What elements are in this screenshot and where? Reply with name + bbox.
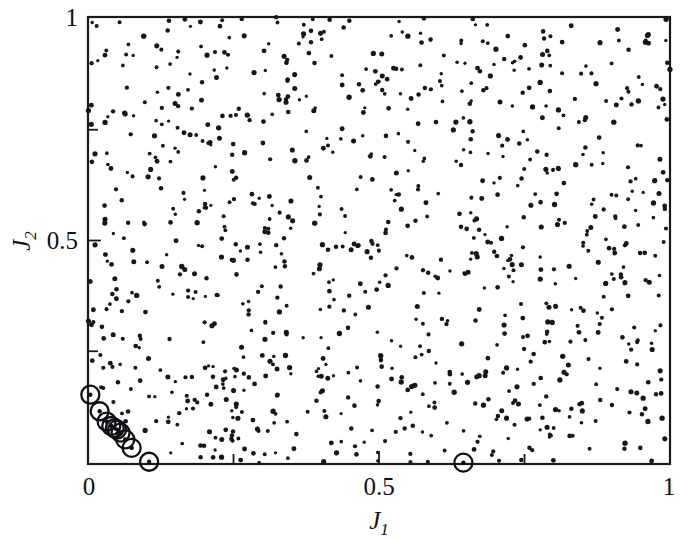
data-point <box>604 237 608 241</box>
data-point <box>627 410 631 414</box>
data-point <box>644 39 648 43</box>
data-point <box>468 137 473 142</box>
data-point <box>152 133 157 138</box>
data-point <box>205 122 210 127</box>
data-point <box>323 414 328 419</box>
data-point <box>278 284 282 288</box>
data-point <box>598 398 603 403</box>
data-point <box>510 254 514 258</box>
data-point <box>101 366 105 370</box>
data-point <box>393 199 397 203</box>
data-point <box>201 139 205 143</box>
data-point <box>232 197 236 201</box>
data-point <box>211 365 214 368</box>
data-point <box>205 53 210 58</box>
data-point <box>318 205 321 208</box>
data-point <box>495 418 499 422</box>
data-point <box>662 436 667 441</box>
data-point <box>332 374 335 377</box>
data-point <box>604 99 608 103</box>
data-point <box>131 259 136 264</box>
data-point <box>475 440 479 444</box>
data-point <box>470 251 474 255</box>
data-point <box>486 397 491 402</box>
data-point <box>520 91 524 95</box>
data-point <box>518 55 523 60</box>
data-point <box>99 385 103 389</box>
data-point <box>573 162 578 167</box>
svg-text:J2: J2 <box>8 231 40 251</box>
data-point <box>138 378 143 383</box>
data-point <box>320 242 325 247</box>
data-point <box>324 363 327 366</box>
data-point <box>334 450 339 455</box>
data-point <box>512 268 516 272</box>
data-point <box>321 459 326 464</box>
data-point <box>472 447 477 452</box>
data-point <box>612 247 616 251</box>
data-point <box>376 399 381 404</box>
data-point <box>390 367 393 370</box>
data-point <box>544 394 548 398</box>
data-point <box>507 389 511 393</box>
data-point <box>397 20 400 23</box>
data-point <box>250 192 255 197</box>
data-point <box>626 47 631 52</box>
data-point <box>511 280 514 283</box>
data-point <box>156 90 160 94</box>
data-point <box>577 330 582 335</box>
data-point <box>159 48 163 52</box>
data-point <box>182 130 187 135</box>
data-point <box>235 416 240 421</box>
y-tick-labels: 1 0.5 <box>47 4 78 254</box>
data-point <box>252 382 257 387</box>
data-point <box>614 193 618 197</box>
data-point <box>154 43 159 48</box>
data-point <box>659 377 663 381</box>
data-point <box>562 181 567 186</box>
data-point <box>334 244 339 249</box>
data-point <box>262 48 267 53</box>
data-point <box>384 134 389 139</box>
data-point <box>116 380 121 385</box>
data-point <box>312 61 317 66</box>
data-point <box>203 189 206 192</box>
data-point <box>491 449 495 453</box>
data-point <box>203 320 207 324</box>
data-point <box>219 455 224 460</box>
data-point <box>566 362 571 367</box>
data-point <box>516 368 519 371</box>
data-point <box>654 84 659 89</box>
data-point <box>347 18 352 23</box>
data-point <box>545 425 550 430</box>
data-point <box>416 187 420 191</box>
data-point <box>418 63 422 67</box>
data-point <box>405 34 410 39</box>
data-point <box>221 382 225 386</box>
data-point <box>378 353 383 358</box>
data-point <box>141 33 146 38</box>
data-point <box>126 221 130 225</box>
data-point <box>421 268 425 272</box>
data-point <box>318 212 322 216</box>
data-point <box>89 61 93 65</box>
data-point <box>498 176 502 180</box>
data-point <box>262 92 266 96</box>
data-point <box>545 333 548 336</box>
data-point <box>658 274 662 278</box>
data-point <box>285 77 290 82</box>
data-point <box>90 358 95 363</box>
data-point <box>325 376 330 381</box>
data-point <box>160 106 164 110</box>
data-point <box>155 159 160 164</box>
data-point <box>542 36 546 40</box>
data-point <box>198 455 203 460</box>
data-point <box>340 126 345 131</box>
data-point <box>611 119 616 124</box>
data-point <box>624 241 629 246</box>
data-point <box>363 441 366 444</box>
data-point <box>439 257 443 261</box>
data-point <box>540 115 545 120</box>
data-point <box>538 80 543 85</box>
data-point <box>307 155 311 159</box>
